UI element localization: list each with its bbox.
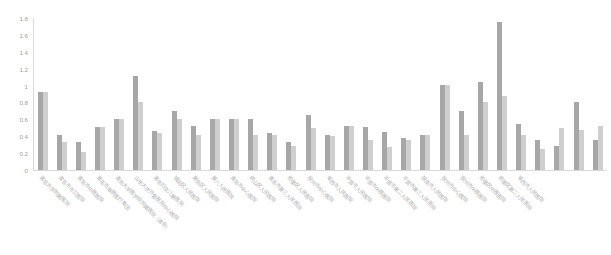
bar-group xyxy=(397,18,416,170)
x-axis-label-cell: 即墨区中医医院 xyxy=(473,172,492,232)
x-axis-label-cell: 青岛市第三人民医院 xyxy=(263,172,282,232)
bar-group xyxy=(416,18,435,170)
bar-series-2 xyxy=(502,96,507,170)
bar-group xyxy=(244,18,263,170)
bar-series-2 xyxy=(368,140,373,170)
bar-series-2 xyxy=(464,135,469,170)
y-axis-tick: 1.2 xyxy=(0,65,28,72)
bar-series-2 xyxy=(119,119,124,171)
x-axis-label-cell: 胶州市中医医院 xyxy=(454,172,473,232)
y-axis-tick: 0 xyxy=(0,167,28,174)
x-axis-label-cell xyxy=(531,172,550,232)
bar-series-2 xyxy=(387,147,392,170)
x-axis-label-cell: 城阳区人民医院 xyxy=(167,172,186,232)
x-axis-label-cell: 即墨区第二人民医院 xyxy=(492,172,511,232)
x-axis-label-cell: 青岛妇女儿童医院 xyxy=(148,172,167,232)
bar-group xyxy=(358,18,377,170)
y-axis-tick: 0.4 xyxy=(0,133,28,140)
bar-chart: 00.20.40.60.811.21.41.61.8 青岛大学附属医院青岛市市立… xyxy=(0,0,611,255)
x-axis-label-cell xyxy=(550,172,569,232)
x-axis-label-cell: 莱西市人民医院 xyxy=(512,172,531,232)
bar-group xyxy=(52,18,71,170)
y-axis-tick: 0.6 xyxy=(0,116,28,123)
bar-group xyxy=(339,18,358,170)
bar-series-2 xyxy=(100,127,105,170)
x-axis-category-labels: 青岛大学附属医院青岛市市立医院青岛市中医医院青岛市海慈医疗集团青岛大学医学院附属… xyxy=(33,172,607,232)
x-axis-label-cell: 第八人民医院 xyxy=(205,172,224,232)
bar-group xyxy=(167,18,186,170)
bar-series-2 xyxy=(215,119,220,171)
bar-group xyxy=(90,18,109,170)
bar-group xyxy=(148,18,167,170)
bar-group xyxy=(531,18,550,170)
bar-series-2 xyxy=(579,130,584,170)
y-axis-tick: 1.6 xyxy=(0,31,28,38)
x-axis-label-cell: 平度市第二人民医院 xyxy=(378,172,397,232)
bar-group xyxy=(550,18,569,170)
bar-series-2 xyxy=(311,128,316,170)
bar-group xyxy=(569,18,588,170)
bar-groups xyxy=(33,18,607,170)
bar-series-2 xyxy=(406,140,411,170)
bar-series-2 xyxy=(483,102,488,170)
bar-group xyxy=(282,18,301,170)
bar-group xyxy=(301,18,320,170)
y-axis-tick: 0.2 xyxy=(0,150,28,157)
bar-series-2 xyxy=(521,135,526,170)
bar-group xyxy=(110,18,129,170)
bar-group xyxy=(454,18,473,170)
bar-group xyxy=(263,18,282,170)
bar-series-2 xyxy=(425,135,430,170)
bar-series-2 xyxy=(196,135,201,170)
bar-series-2 xyxy=(81,152,86,170)
bar-series-2 xyxy=(445,85,450,170)
bar-series-2 xyxy=(291,146,296,170)
bar-series-2 xyxy=(157,133,162,170)
y-axis-tick: 1 xyxy=(0,82,28,89)
bar-series-2 xyxy=(62,142,67,170)
x-axis-label-cell: 青岛市中医医院 xyxy=(71,172,90,232)
x-axis-label-cell: 黄岛区人民医院 xyxy=(186,172,205,232)
y-axis-tick-labels: 00.20.40.60.811.21.41.61.8 xyxy=(0,0,30,170)
y-axis-tick: 1.8 xyxy=(0,15,28,22)
x-axis-label-cell: 平度市人民医院 xyxy=(339,172,358,232)
bar-series-2 xyxy=(234,119,239,170)
bar-group xyxy=(129,18,148,170)
x-axis-label-cell: 平度市中医医院 xyxy=(358,172,377,232)
bar-group xyxy=(33,18,52,170)
bar-series-2 xyxy=(540,149,545,170)
bar-group xyxy=(224,18,243,170)
y-axis-tick: 0.8 xyxy=(0,99,28,106)
x-axis-label-cell: 青岛市中心医院 xyxy=(224,172,243,232)
bar-series-2 xyxy=(598,126,603,170)
bar-group xyxy=(320,18,339,170)
bar-group xyxy=(205,18,224,170)
bar-group xyxy=(512,18,531,170)
bar-series-2 xyxy=(43,92,48,170)
x-axis-label-cell: 山东大学齐鲁医院中心医院 xyxy=(129,172,148,232)
x-axis-label-cell: 胶州市中心医院 xyxy=(435,172,454,232)
x-axis-label-cell xyxy=(588,172,607,232)
x-axis-label-cell: 即墨区人民医院 xyxy=(282,172,301,232)
x-axis-label-cell: 胶南市人民医院 xyxy=(416,172,435,232)
x-axis-label-cell: 青岛市海慈医疗集团 xyxy=(90,172,109,232)
x-axis-label-cell: 莱西市人民医院 xyxy=(320,172,339,232)
x-axis-label-cell: 平度市第三人民医院 xyxy=(397,172,416,232)
bar-group xyxy=(435,18,454,170)
bar-group xyxy=(588,18,607,170)
bar-group xyxy=(473,18,492,170)
x-axis-label-cell: 崂山区人民医院 xyxy=(244,172,263,232)
x-axis-label-cell: 青岛市市立医院 xyxy=(52,172,71,232)
bar-group xyxy=(378,18,397,170)
bar-group xyxy=(492,18,511,170)
bar-series-2 xyxy=(349,126,354,170)
bar-series-2 xyxy=(559,128,564,170)
x-axis-label-cell xyxy=(569,172,588,232)
x-axis-line xyxy=(33,170,607,171)
bar-series-2 xyxy=(138,102,143,170)
x-axis-label-cell: 青岛大学医学院附属医院（青岛） xyxy=(110,172,129,232)
bar-group xyxy=(71,18,90,170)
bar-series-2 xyxy=(330,136,335,170)
bar-group xyxy=(186,18,205,170)
bar-series-2 xyxy=(253,135,258,170)
